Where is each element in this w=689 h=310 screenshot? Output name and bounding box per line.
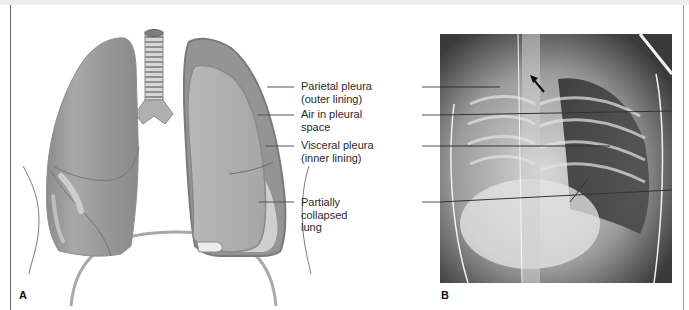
chest-xray (440, 34, 672, 283)
right-lung (47, 38, 139, 256)
label-visceral-pleura: Visceral pleura (inner lining) (301, 139, 374, 164)
label-parietal-pleura: Parietal pleura (outer lining) (301, 80, 372, 105)
panel-letter-a: A (19, 289, 27, 301)
bronchi (135, 100, 173, 124)
body-outline-left (23, 166, 39, 274)
label-air-in-pleural-space: Air in pleural space (301, 108, 362, 133)
lungs-illustration (11, 6, 441, 306)
panel-letter-b: B (441, 289, 449, 301)
panel-b-xray (440, 34, 672, 283)
panel-a-illustration: Parietal pleura (outer lining) Air in pl… (11, 6, 441, 306)
label-partially-collapsed-lung: Partially collapsed lung (301, 196, 347, 234)
trachea (145, 32, 163, 100)
